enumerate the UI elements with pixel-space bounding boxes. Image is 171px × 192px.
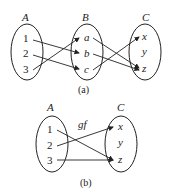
element-2: 2: [23, 47, 29, 59]
element-3-b: 3: [47, 154, 53, 166]
diagram-a: A B C 1 2 3 a b c x y z (a): [11, 11, 161, 96]
set-label-b: B: [82, 11, 89, 23]
set-label-a-b: A: [46, 101, 54, 113]
function-label-gf: gf: [78, 118, 89, 130]
element-y-b: y: [117, 136, 123, 148]
element-x-b: x: [117, 120, 123, 132]
element-b: b: [84, 47, 90, 59]
caption-a: (a): [78, 84, 89, 96]
element-c: c: [84, 63, 89, 75]
arrow-c-to-x: [93, 37, 139, 70]
set-label-a: A: [21, 11, 29, 23]
set-label-c: C: [142, 11, 150, 23]
element-z: z: [141, 62, 147, 74]
element-2-b: 2: [47, 139, 53, 151]
element-y: y: [141, 45, 147, 57]
arrow-3-to-a: [33, 38, 79, 70]
function-composition-diagram: A B C 1 2 3 a b c x y z (a) A C 1 2 3 x: [0, 0, 171, 192]
set-label-c-b: C: [117, 101, 125, 113]
element-z-b: z: [117, 153, 123, 165]
element-3: 3: [23, 63, 29, 75]
element-a: a: [84, 31, 90, 43]
caption-b: (b): [80, 177, 92, 189]
element-1: 1: [23, 32, 29, 44]
element-1-b: 1: [47, 123, 53, 135]
element-x: x: [141, 30, 147, 42]
diagram-b: A C 1 2 3 x y z gf (b): [36, 101, 137, 189]
